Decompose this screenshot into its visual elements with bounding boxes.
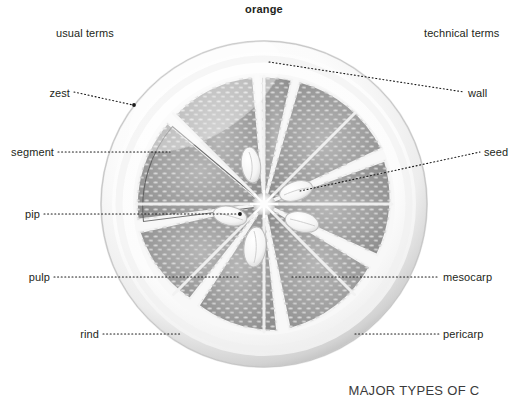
footer-caption: MAJOR TYPES OF C — [0, 383, 528, 396]
core — [250, 190, 278, 218]
label-mesocarp: mesocarp — [443, 271, 492, 283]
label-seed: seed — [484, 146, 508, 158]
label-pulp: pulp — [0, 271, 50, 283]
label-pericarp: pericarp — [443, 328, 484, 340]
diagram-canvas: orange usual terms technical terms — [0, 0, 528, 396]
label-zest: zest — [0, 87, 70, 99]
label-wall: wall — [468, 87, 487, 99]
leader-zest — [74, 92, 133, 105]
label-rind: rind — [0, 328, 99, 340]
label-segment: segment — [0, 146, 54, 158]
label-pip: pip — [0, 208, 40, 220]
